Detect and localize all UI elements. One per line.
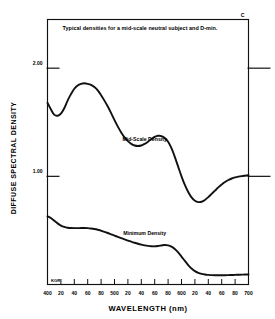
x-tick-label: 600	[177, 290, 186, 296]
x-tick-label: 20	[125, 290, 131, 296]
x-tick-label: 500	[110, 290, 119, 296]
x-tick-label: 80	[232, 290, 238, 296]
plot-stamp-label: KGR	[51, 278, 60, 283]
x-tick-label: 60	[152, 290, 158, 296]
chart-container: 4002040608050020406080600204060807002.00…	[0, 0, 275, 319]
series-curve-minimum-density	[48, 216, 249, 275]
x-tick-label: 700	[244, 290, 253, 296]
y-axis-title: DIFFUSE SPECTRAL DENSITY	[10, 102, 17, 215]
x-tick-label: 60	[219, 290, 225, 296]
panel-letter-label: C	[241, 12, 245, 18]
x-tick-label: 20	[192, 290, 198, 296]
chart-title: Typical densities for a mid-scale neutra…	[63, 25, 218, 31]
x-axis-title: WAVELENGTH (nm)	[108, 304, 187, 313]
x-tick-label: 400	[43, 290, 52, 296]
x-tick-label: 40	[139, 290, 145, 296]
series-label-minimum-density: Minimum Density	[123, 230, 166, 236]
x-tick-label: 40	[206, 290, 212, 296]
x-tick-label: 40	[72, 290, 78, 296]
series-label-mid-scale-density: Mid-Scale Density	[122, 136, 167, 142]
x-tick-label: 20	[58, 290, 64, 296]
x-tick-label: 60	[85, 290, 91, 296]
series-curve-mid-scale-density	[48, 83, 249, 202]
x-tick-label: 80	[98, 290, 104, 296]
y-tick-label: 1.00	[33, 168, 43, 174]
plot-frame	[48, 20, 249, 285]
spectral-density-chart: 4002040608050020406080600204060807002.00…	[0, 0, 275, 319]
y-tick-label: 2.00	[33, 60, 43, 66]
x-tick-label: 80	[165, 290, 171, 296]
